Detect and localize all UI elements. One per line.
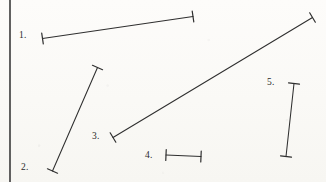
segment-4-label: 4. xyxy=(145,151,153,161)
segment-3-label: 3. xyxy=(92,132,100,142)
segment-5-shaft xyxy=(286,84,294,157)
segment-2-end-cap xyxy=(92,65,102,69)
segment-4-shaft xyxy=(166,155,201,157)
segment-3-end-cap xyxy=(310,13,316,22)
segment-2-start-cap xyxy=(47,169,57,173)
segment-1-shaft xyxy=(43,17,194,39)
segment-5-label: 5. xyxy=(267,78,275,88)
segment-2-shaft xyxy=(53,68,98,172)
segment-1 xyxy=(42,11,194,44)
segment-5-start-cap xyxy=(289,83,300,84)
segment-3 xyxy=(110,13,315,142)
segment-3-shaft xyxy=(113,18,313,138)
segment-4 xyxy=(166,150,201,162)
figure-canvas: 1.2.3.4.5. xyxy=(0,0,326,182)
segment-5 xyxy=(281,83,300,157)
segment-5-end-cap xyxy=(281,156,292,157)
segment-2-label: 2. xyxy=(21,163,29,173)
segment-1-end-cap xyxy=(192,11,194,22)
segment-2 xyxy=(47,65,102,173)
segment-3-start-cap xyxy=(110,133,116,142)
segment-1-start-cap xyxy=(42,33,44,44)
line-segments-drawing xyxy=(0,0,326,182)
segment-1-label: 1. xyxy=(19,31,27,41)
